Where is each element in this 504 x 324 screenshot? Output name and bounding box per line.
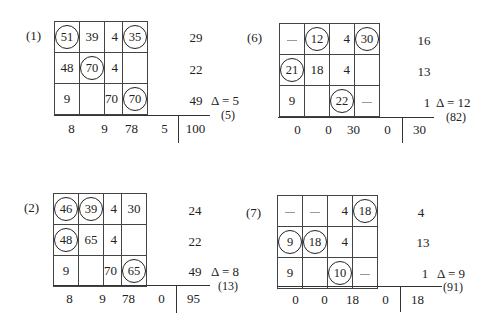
circled-value: 35 [123,25,147,49]
grid-row: 922 [280,86,380,117]
cell-value: 9 [287,265,294,280]
grid-row: 5139435 [55,22,148,53]
grid-cell [305,86,330,117]
grid-cell [353,227,378,258]
tableau-grid: 51394354870497070 [54,21,148,115]
delta-sub: (82) [446,110,466,125]
bottom-rule [53,285,210,286]
grid-cell: 4 [328,196,353,227]
grid-cell: 10 [328,258,353,289]
grid-cell: 9 [54,256,79,287]
grid-cell: 21 [280,55,305,86]
cell-value: 39 [86,29,99,44]
cell-value: 30 [128,201,141,216]
cell-value: 18 [311,62,324,77]
delta-value: Δ = 12 [436,95,470,111]
row-sum: 13 [408,235,438,251]
dash-mark [310,212,320,213]
grid-cell: 70 [123,84,148,115]
grid-cell: 18 [305,55,330,86]
cell-value: 70 [104,263,117,278]
grid-cell: 65 [122,256,147,287]
col-sum: 0 [370,292,401,308]
col-sum: 0 [372,122,403,138]
cell-value: 9 [63,263,70,278]
grid-row: 9184 [278,227,378,258]
row-sum: 1 [410,266,440,282]
grid-cell: 18 [303,227,328,258]
grid-cell: 9 [55,84,80,115]
row-sum: 13 [409,64,439,80]
circled-value: 70 [80,56,104,80]
cell-value: 4 [344,31,351,46]
grid-cell [122,225,147,256]
col-sum: 5 [149,121,180,137]
circled-value: 65 [122,259,146,283]
bottom-rule [54,115,210,116]
circled-value: 39 [79,197,103,221]
grid-row: 97065 [54,256,147,287]
bottom-rule [278,117,434,118]
grid-cell: 46 [54,194,79,225]
grid-row: 48654 [54,225,147,256]
grid-cell: 4 [330,55,355,86]
grid-cell: 4 [105,22,123,53]
grid-cell: 30 [355,24,380,55]
row-sum: 49 [180,264,210,280]
cell-value: 4 [342,234,349,249]
col-sum: 8 [56,121,87,137]
cell-value: 4 [112,60,119,75]
tableau-grid: 1243021184922 [279,23,380,117]
grid-cell: 30 [122,194,147,225]
delta-value: Δ = 8 [211,264,239,280]
col-sum: 78 [113,291,144,307]
grid-cell: 4 [104,225,122,256]
col-sum: 0 [282,122,313,138]
grid-row: 97070 [55,84,148,115]
grid-cell: 48 [55,53,80,84]
grid-cell: 4 [105,53,123,84]
delta-sub: (91) [443,280,463,295]
total: 18 [402,292,433,308]
grid-cell [280,24,305,55]
grid-row: 21184 [280,55,380,86]
grid-cell [355,55,380,86]
circled-value: 21 [280,58,304,82]
cell-value: 48 [61,60,74,75]
grid-cell [303,258,328,289]
col-sum: 30 [338,122,369,138]
circled-value: 9 [278,230,302,254]
cell-value: 9 [289,93,296,108]
dash-mark [362,102,372,103]
grid-cell: 35 [123,22,148,53]
grid-cell [353,258,378,289]
delta-sub: (5) [221,108,235,123]
delta-value: Δ = 5 [211,93,239,109]
col-sum: 78 [116,121,147,137]
grid-cell: 4 [330,24,355,55]
dash-mark [285,212,295,213]
grid-cell: 9 [278,258,303,289]
grid-row: 910 [278,258,378,289]
dash-mark [287,40,297,41]
bottom-rule [277,286,442,287]
panel-label: (7) [246,205,261,221]
grid-cell: 4 [104,194,122,225]
circled-value: 18 [303,230,327,254]
panel-label: (1) [26,28,41,44]
grid-cell: 70 [105,84,123,115]
row-sum: 49 [181,93,211,109]
cell-value: 70 [105,91,118,106]
grid-cell: 51 [55,22,80,53]
grid-cell: 70 [104,256,122,287]
row-sum: 24 [180,203,210,219]
circled-value: 18 [353,199,377,223]
total: 95 [178,291,209,307]
grid-cell [303,196,328,227]
grid-cell: 18 [353,196,378,227]
row-sum: 16 [409,33,439,49]
col-sum: 18 [337,292,368,308]
grid-row: 4639430 [54,194,147,225]
tableau-grid: 46394304865497065 [53,193,147,287]
dash-mark [360,274,370,275]
